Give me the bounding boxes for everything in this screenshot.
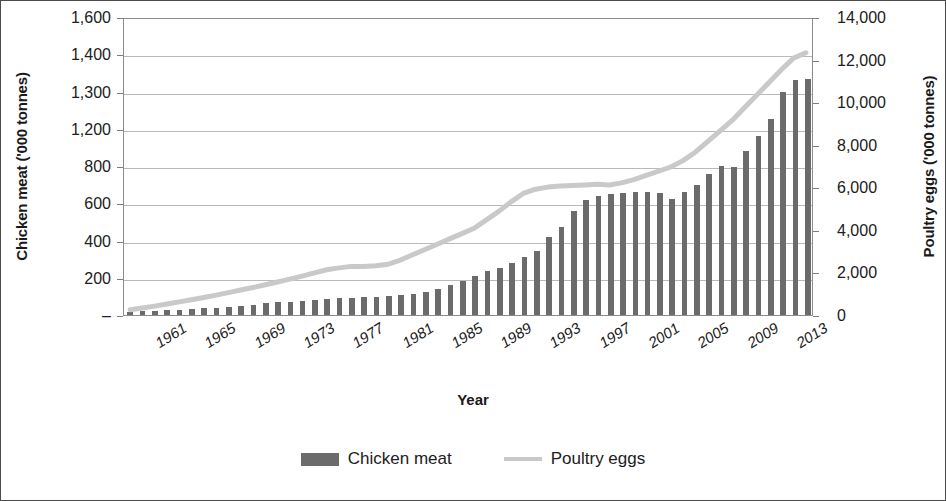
y-axis-left-tick-label: 1,200	[71, 122, 111, 138]
bar	[768, 119, 774, 315]
y-axis-right-tick-label: 10,000	[837, 95, 886, 111]
bar	[497, 268, 503, 315]
bar	[448, 285, 454, 315]
bar	[608, 194, 614, 315]
bar	[398, 295, 404, 315]
y-axis-left-tick-label: 1,300	[71, 85, 111, 101]
bar	[571, 211, 577, 315]
bar	[731, 167, 737, 315]
x-axis-tick-label: 2001	[645, 319, 682, 351]
bar	[189, 309, 195, 315]
y-axis-right-tick-label: 2,000	[837, 265, 877, 281]
bar	[423, 292, 429, 315]
bar	[214, 308, 220, 315]
y-axis-right-tick-labels: 14,00012,00010,0008,0006,0004,0002,0000	[831, 1, 907, 321]
x-axis-tick-label: 1961	[152, 319, 189, 351]
tickmark	[813, 103, 819, 104]
x-axis-tick-label: 1977	[349, 319, 386, 351]
x-axis-tick-label: 2009	[744, 319, 781, 351]
bar	[263, 303, 269, 315]
bar	[756, 136, 762, 315]
bar	[546, 237, 552, 315]
bar	[238, 306, 244, 315]
bar	[522, 257, 528, 315]
y-axis-right-tick-label: 14,000	[837, 10, 886, 26]
bar	[485, 271, 491, 315]
bar	[559, 227, 565, 315]
tickmark	[813, 188, 819, 189]
bar	[509, 263, 515, 315]
y-axis-left-tick-label: 400	[84, 234, 111, 250]
bar	[645, 192, 651, 315]
bar	[275, 302, 281, 315]
bar	[620, 193, 626, 315]
bar	[435, 289, 441, 315]
bar	[164, 310, 170, 315]
bar	[780, 92, 786, 316]
bar	[177, 310, 183, 315]
y-axis-left-tick-label: 600	[84, 196, 111, 212]
bar	[251, 305, 257, 315]
y-axis-left-tick-label: 1,600	[71, 10, 111, 26]
y-axis-right-tickmarks	[813, 18, 819, 316]
chart-legend: Chicken meat Poultry eggs	[1, 449, 945, 469]
legend-bar-swatch-icon	[301, 453, 339, 466]
y-axis-left-tick-label: 200	[84, 271, 111, 287]
chart-figure: Chicken meat ('000 tonnes) Poultry eggs …	[0, 0, 946, 501]
bar	[152, 311, 158, 315]
x-axis-tick-labels: 1961196519691973197719811985198919931997…	[123, 319, 813, 389]
tickmark	[813, 316, 819, 317]
x-axis-tick-label: 1997	[596, 319, 633, 351]
x-axis-tick-label: 1993	[547, 319, 584, 351]
y-axis-left-title: Chicken meat ('000 tonnes)	[7, 11, 35, 321]
bar	[534, 251, 540, 315]
bar	[583, 200, 589, 315]
bar-series-chicken-meat	[124, 19, 812, 315]
x-axis-tick-label: 1989	[497, 319, 534, 351]
bar	[596, 196, 602, 315]
x-axis-title: Year	[1, 391, 945, 408]
bar	[719, 166, 725, 315]
y-axis-left-tick-labels: 1,6001,4001,3001,200800600400200–	[37, 1, 115, 321]
bar	[411, 294, 417, 315]
tickmark	[813, 61, 819, 62]
y-axis-right-tick-label: 4,000	[837, 223, 877, 239]
y-axis-left-tick-label: –	[102, 308, 111, 324]
bar	[669, 199, 675, 315]
bar	[793, 80, 799, 315]
bar	[374, 297, 380, 315]
legend-label-poultry-eggs: Poultry eggs	[551, 449, 646, 469]
bar	[127, 312, 133, 315]
bar	[361, 297, 367, 315]
bar	[657, 193, 663, 315]
bar	[201, 308, 207, 315]
x-axis-tick-label: 1973	[300, 319, 337, 351]
x-axis-tick-label: 2013	[793, 319, 830, 351]
y-axis-right-title: Poultry eggs ('000 tonnes)	[915, 11, 943, 321]
y-axis-left-tick-label: 1,400	[71, 47, 111, 63]
bar	[140, 311, 146, 315]
y-axis-right-tick-label: 0	[837, 308, 846, 324]
bar	[288, 302, 294, 315]
legend-item-chicken-meat: Chicken meat	[301, 449, 452, 469]
bar	[300, 301, 306, 315]
x-axis-tick-label: 1981	[399, 319, 436, 351]
tickmark	[813, 273, 819, 274]
bar	[694, 185, 700, 315]
bar	[337, 298, 343, 315]
bar	[349, 298, 355, 315]
legend-item-poultry-eggs: Poultry eggs	[504, 449, 646, 469]
bar	[460, 281, 466, 315]
x-axis-tick-label: 1985	[448, 319, 485, 351]
y-axis-left-tick-label: 800	[84, 159, 111, 175]
bar	[743, 151, 749, 315]
bar	[633, 192, 639, 315]
legend-label-chicken-meat: Chicken meat	[348, 449, 452, 469]
y-axis-right-tick-label: 8,000	[837, 138, 877, 154]
bar	[706, 174, 712, 315]
bar	[324, 299, 330, 315]
tickmark	[813, 231, 819, 232]
y-axis-right-tick-label: 12,000	[837, 53, 886, 69]
bar	[682, 192, 688, 315]
y-axis-left-title-text: Chicken meat ('000 tonnes)	[13, 72, 30, 260]
